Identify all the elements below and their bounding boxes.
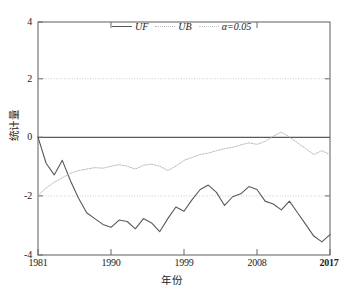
legend-line-alpha-icon	[199, 23, 219, 31]
xtick-label-1981: 1981	[15, 257, 61, 268]
chart-figure: 4 2 0 -2 -4 1981 1990 1999 2008 2017 统计量…	[0, 0, 343, 298]
ytick-label-2: 2	[6, 73, 32, 84]
legend-line-ub-icon	[155, 23, 175, 31]
legend-line-uf-icon	[112, 23, 132, 31]
xtick-label-2017: 2017	[306, 257, 343, 268]
legend-label-ub: UB	[178, 21, 191, 32]
x-axis-label: 年份	[0, 272, 343, 287]
y-axis-label: 统计量	[6, 96, 21, 156]
legend-label-uf: UF	[135, 21, 148, 32]
plot-frame	[38, 22, 330, 255]
ytick-label-4: 4	[6, 16, 32, 27]
xtick-label-1990: 1990	[88, 257, 134, 268]
xtick-label-1999: 1999	[161, 257, 207, 268]
legend-entry-uf: UF	[112, 21, 148, 32]
legend-entry-ub: UB	[155, 21, 191, 32]
plot-canvas	[0, 0, 343, 298]
legend-label-alpha: α=0.05	[222, 21, 252, 32]
legend-entry-alpha: α=0.05	[199, 21, 252, 32]
xtick-label-2008: 2008	[234, 257, 280, 268]
ytick-label-neg2: -2	[6, 190, 32, 201]
chart-legend: UF UB α=0.05	[112, 21, 258, 32]
